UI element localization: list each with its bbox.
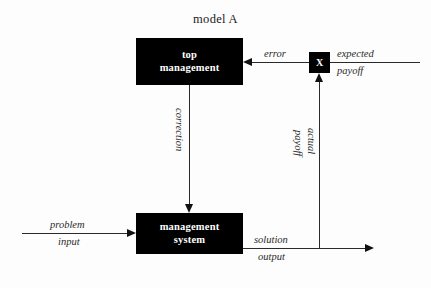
diagram-canvas: model A top management management system… — [0, 0, 431, 288]
label-expected-payoff-line1: expected — [337, 47, 374, 60]
edge-line-error — [252, 62, 309, 63]
block-top-management[interactable]: top management — [136, 38, 243, 85]
label-problem-input-line1: problem — [50, 218, 85, 231]
block-top-management-line2: management — [160, 62, 220, 75]
label-solution-output-line1: solution — [254, 233, 288, 246]
comparator-junction[interactable]: X — [309, 52, 330, 73]
edge-line-correction — [189, 85, 190, 204]
arrowhead-correction — [185, 204, 193, 213]
block-top-management-label: top management — [156, 49, 224, 74]
block-management-system-label: management system — [156, 221, 224, 246]
comparator-junction-label: X — [316, 57, 323, 68]
label-expected-payoff-line2: payoff — [337, 64, 363, 77]
arrowhead-error — [243, 58, 252, 66]
block-top-management-line1: top — [182, 49, 197, 60]
arrowhead-solution-output — [365, 244, 374, 252]
edge-line-expected-payoff — [330, 62, 420, 63]
edge-line-solution-output — [243, 248, 365, 249]
diagram-title: model A — [0, 12, 431, 27]
block-management-system[interactable]: management system — [136, 213, 243, 254]
edge-line-actual-payoff — [319, 82, 320, 248]
arrowhead-problem-input — [127, 229, 136, 237]
label-actual-payoff-word-payoff: payoff — [292, 130, 305, 156]
block-management-system-line2: system — [160, 234, 220, 247]
label-correction: correction — [173, 108, 186, 151]
label-actual-payoff-word-actual: actual — [305, 128, 318, 154]
label-problem-input-line2: input — [58, 235, 80, 248]
arrowhead-actual-payoff — [315, 73, 323, 82]
edge-line-problem-input — [22, 233, 127, 234]
label-solution-output-line2: output — [258, 250, 285, 263]
label-error: error — [264, 47, 286, 60]
block-management-system-line1: management — [160, 221, 220, 232]
